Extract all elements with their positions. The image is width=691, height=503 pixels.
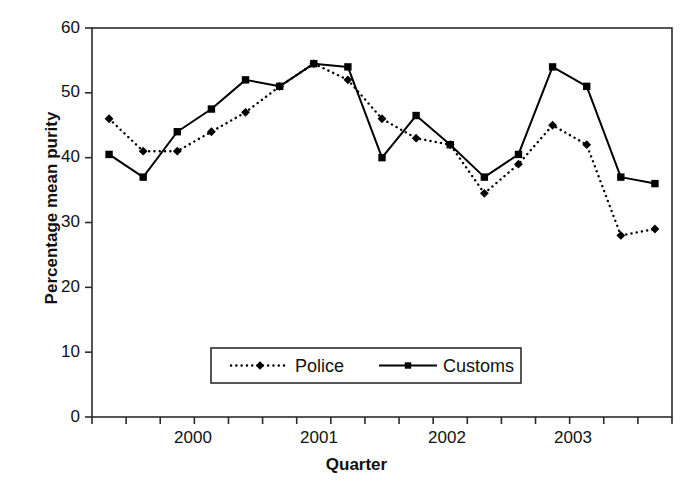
data-point-customs-2 [174, 128, 181, 135]
data-point-police-2 [173, 147, 182, 156]
data-point-police-9 [412, 134, 421, 143]
data-point-customs-15 [617, 173, 624, 180]
plot-area: PoliceCustoms [0, 0, 691, 503]
legend-marker-customs [405, 362, 411, 368]
data-point-customs-13 [549, 63, 556, 70]
data-point-customs-7 [344, 63, 351, 70]
data-point-customs-10 [447, 141, 454, 148]
data-point-police-12 [514, 160, 523, 169]
legend-label-customs: Customs [443, 356, 514, 376]
data-point-police-14 [582, 140, 591, 149]
data-point-customs-11 [481, 173, 488, 180]
data-point-customs-12 [515, 151, 522, 158]
data-point-customs-14 [583, 83, 590, 90]
chart-figure: Percentage mean purity 60 50 40 30 20 10… [0, 0, 691, 503]
data-point-customs-16 [651, 180, 658, 187]
data-point-customs-3 [208, 105, 215, 112]
data-point-customs-8 [378, 154, 385, 161]
series-line-police [109, 64, 655, 236]
data-point-customs-5 [276, 83, 283, 90]
data-point-police-3 [207, 127, 216, 136]
data-point-customs-0 [105, 151, 112, 158]
data-point-customs-4 [242, 76, 249, 83]
data-point-police-16 [651, 225, 660, 234]
legend-label-police: Police [295, 356, 344, 376]
data-point-police-15 [616, 231, 625, 240]
data-series-layer [105, 59, 660, 240]
chart-legend: PoliceCustoms [211, 348, 521, 383]
series-line-customs [109, 64, 655, 184]
data-point-customs-9 [412, 112, 419, 119]
data-point-customs-1 [139, 173, 146, 180]
data-point-customs-6 [310, 60, 317, 67]
